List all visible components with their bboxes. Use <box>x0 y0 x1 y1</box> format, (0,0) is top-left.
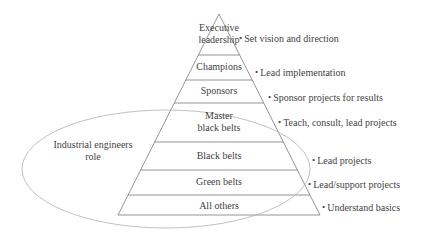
pyramid-svg <box>0 0 434 236</box>
pyramid-outline <box>118 14 320 215</box>
industrial-engineers-ellipse <box>22 110 310 228</box>
pyramid-dividers <box>128 55 310 195</box>
pyramid-triangle <box>118 14 320 215</box>
pyramid-figure: Executive leadership Champions Sponsors … <box>0 0 434 236</box>
